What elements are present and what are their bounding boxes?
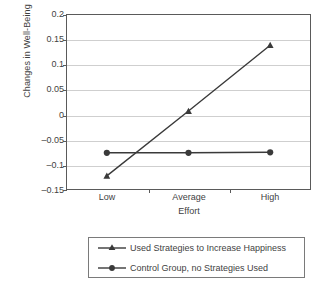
legend-item-used-strategies[interactable]: Used Strategies to Increase Happiness — [89, 238, 304, 258]
data-series-layer — [66, 14, 311, 190]
y-tick-label-1: 0.15 — [24, 34, 64, 44]
series-used-strategies — [103, 42, 273, 179]
y-tick — [63, 190, 67, 191]
series-control-group — [104, 149, 274, 156]
y-tick-label-4: 0 — [24, 110, 64, 120]
chart-legend: Used Strategies to Increase Happiness Co… — [88, 237, 305, 278]
x-axis-title-wrap: Effort — [0, 206, 334, 216]
y-tick-label-7: –0.15 — [24, 185, 64, 195]
x-tick-label-average: Average — [154, 192, 224, 202]
x-axis-title: Effort — [134, 206, 199, 216]
legend-label: Control Group, no Strategies Used — [127, 263, 268, 273]
legend-item-control-group[interactable]: Control Group, no Strategies Used — [89, 258, 304, 278]
y-tick-label-0: 0.2 — [24, 9, 64, 19]
chart-figure: Changes in Well-Being 0.2 0.15 0.1 0.05 … — [0, 0, 334, 284]
x-tick-label-high: High — [235, 192, 305, 202]
legend-label: Used Strategies to Increase Happiness — [127, 243, 286, 253]
y-tick-label-2: 0.1 — [24, 59, 64, 69]
y-tick-label-3: 0.05 — [24, 84, 64, 94]
y-tick-label-6: –0.1 — [24, 160, 64, 170]
x-tick-label-low: Low — [72, 192, 142, 202]
triangle-marker-icon — [97, 242, 127, 254]
data-point — [267, 42, 274, 48]
y-tick-label-5: –0.05 — [24, 135, 64, 145]
data-point — [267, 149, 273, 155]
circle-marker-icon — [97, 262, 127, 274]
data-point — [185, 150, 191, 156]
data-point — [104, 150, 110, 156]
